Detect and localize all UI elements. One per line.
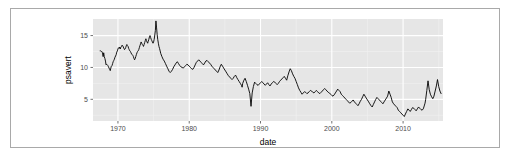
figure-frame: 19701980199020002010 51015 date psavert [10, 8, 500, 148]
y-axis-title: psavert [63, 55, 73, 84]
x-axis-title: date [260, 137, 277, 147]
svg-text:1980: 1980 [181, 125, 197, 132]
plot-area: 19701980199020002010 51015 date psavert [11, 9, 501, 149]
chart-svg: 19701980199020002010 51015 date psavert [11, 9, 501, 149]
x-axis-tick-labels: 19701980199020002010 [110, 125, 411, 132]
panel-background [93, 19, 443, 121]
svg-text:1970: 1970 [110, 125, 126, 132]
svg-text:15: 15 [80, 32, 88, 39]
y-axis-tick-labels: 51015 [80, 32, 88, 103]
svg-text:2000: 2000 [324, 125, 340, 132]
y-axis-ticks [91, 36, 94, 100]
svg-text:1990: 1990 [253, 125, 269, 132]
svg-text:5: 5 [84, 96, 88, 103]
svg-text:10: 10 [80, 64, 88, 71]
x-axis-ticks [118, 121, 403, 124]
svg-text:2010: 2010 [395, 125, 411, 132]
